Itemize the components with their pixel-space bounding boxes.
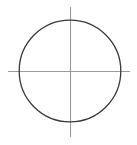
- circle-crosshair-diagram: Circle with crosshair axes: [0, 0, 137, 145]
- figure-canvas: Circle with crosshair axes: [0, 0, 137, 145]
- canvas-background: [0, 0, 137, 145]
